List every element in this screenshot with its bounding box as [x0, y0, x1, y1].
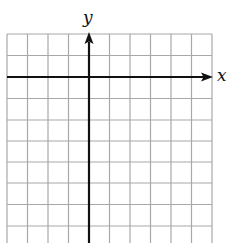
coordinate-grid: [0, 0, 229, 243]
y-axis-label: y: [83, 9, 93, 26]
x-axis-label: x: [217, 67, 227, 84]
y-axis: [85, 32, 94, 243]
grid-lines: [7, 34, 212, 243]
